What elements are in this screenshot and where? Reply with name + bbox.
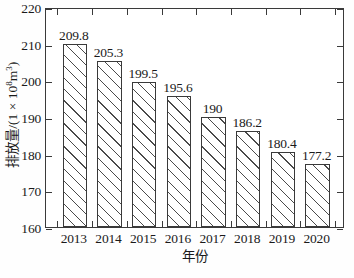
bar-value-label: 205.3 (80, 46, 136, 60)
bar-value-label: 199.5 (115, 67, 171, 81)
x-axis-tick-label: 2020 (295, 232, 339, 246)
chart-labels: 160170180190200210220209.82013205.320141… (0, 0, 354, 278)
y-axis-title-unit: m (5, 71, 20, 82)
bar-value-label: 209.8 (46, 29, 102, 43)
bar-value-label: 186.2 (219, 116, 275, 130)
chart-figure: 160170180190200210220209.82013205.320141… (0, 0, 354, 278)
bar-value-label: 190 (185, 102, 241, 116)
x-axis-title: 年份 (45, 250, 344, 264)
bar-value-label: 177.2 (289, 149, 345, 163)
y-axis-title-exponent: 8 (4, 81, 14, 86)
y-axis-title: 排放量/(1 × 108m3) (6, 25, 20, 205)
y-axis-title-unit-exponent: 3 (4, 66, 14, 71)
y-axis-tick-label: 220 (1, 2, 41, 16)
bar-value-label: 195.6 (150, 81, 206, 95)
y-axis-title-prefix: 排放量/(1 × 10 (5, 86, 20, 168)
y-axis-title-close: ) (5, 62, 20, 67)
y-axis-tick-label: 160 (1, 222, 41, 236)
